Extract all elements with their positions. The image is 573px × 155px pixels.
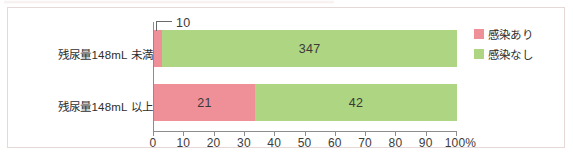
x-tick-label-70: 70 <box>358 136 372 150</box>
legend-swatch-infected <box>474 29 484 39</box>
bar-segment-not-infected-0: 347 <box>162 30 457 67</box>
category-label-0: 残尿量148mL 未満 <box>17 46 153 62</box>
bar-value-label-infected-1: 21 <box>197 96 212 110</box>
bar-segment-not-infected-1: 42 <box>255 84 457 121</box>
legend-label-not-infected: 感染なし <box>488 46 533 62</box>
x-tick-label-20: 20 <box>207 136 221 150</box>
figure-frame: 残尿量148mL 未満 残尿量148mL 以上 347 21 <box>7 7 565 148</box>
x-tick-label-0: 0 <box>150 136 157 150</box>
x-tick-label-10: 10 <box>176 136 190 150</box>
x-tick-label-30: 30 <box>237 136 251 150</box>
x-tick-label-60: 60 <box>328 136 342 150</box>
x-tick-label-80: 80 <box>389 136 403 150</box>
legend-swatch-not-infected <box>474 49 484 59</box>
x-tick-label-40: 40 <box>267 136 281 150</box>
chart-screenshot: 残尿量148mL 未満 残尿量148mL 以上 347 21 <box>0 0 573 155</box>
bar-value-label-not-infected-1: 42 <box>349 96 364 110</box>
legend: 感染あり 感染なし <box>474 27 533 67</box>
stacked-bar-row-1: 21 42 <box>154 84 457 121</box>
legend-item-infected: 感染あり <box>474 27 533 41</box>
legend-item-not-infected: 感染なし <box>474 47 533 61</box>
x-tick-label-50: 50 <box>298 136 312 150</box>
clipped-top-strip <box>4 0 334 4</box>
callout-leader-line <box>156 21 172 31</box>
stacked-bar-row-0: 347 <box>154 30 457 67</box>
x-tick-label-90: 90 <box>419 136 433 150</box>
legend-label-infected: 感染あり <box>488 26 533 42</box>
plot-area: 残尿量148mL 未満 残尿量148mL 以上 347 21 <box>8 8 564 147</box>
bar-segment-infected-0 <box>154 30 162 67</box>
x-tick-label-100: 100% <box>445 136 477 150</box>
bar-value-label-not-infected-0: 347 <box>299 42 321 56</box>
callout-value-label: 10 <box>176 16 191 30</box>
category-label-1: 残尿量148mL 以上 <box>17 98 153 114</box>
bar-segment-infected-1: 21 <box>154 84 255 121</box>
